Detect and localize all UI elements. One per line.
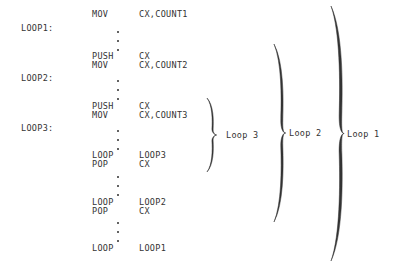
nested-loop-diagram: LOOP1:LOOP2:LOOP3: MOVCX,COUNT1PUSHCXMOV… — [0, 0, 396, 269]
curly-brace-icon — [331, 6, 344, 261]
curly-brace-icon — [274, 44, 286, 222]
brace-label: Loop 3 — [226, 130, 259, 140]
loop-braces — [0, 0, 396, 269]
brace-label: Loop 1 — [347, 129, 380, 139]
brace-label: Loop 2 — [289, 128, 322, 138]
curly-brace-icon — [207, 98, 216, 172]
